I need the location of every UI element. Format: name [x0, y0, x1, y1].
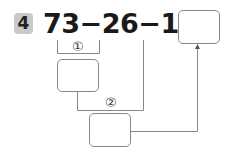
problem-number-badge: 4	[14, 13, 33, 34]
step1-answer-box[interactable]	[57, 59, 99, 92]
step1-label: ①	[72, 40, 84, 54]
math-problem: 4 73−26−18= ① ②	[0, 0, 230, 161]
step2-answer-box[interactable]	[89, 113, 131, 147]
arrow-head-icon	[195, 44, 200, 49]
final-answer-box[interactable]	[178, 10, 220, 44]
step2-label: ②	[105, 96, 117, 110]
result-arrow-line	[130, 47, 198, 132]
